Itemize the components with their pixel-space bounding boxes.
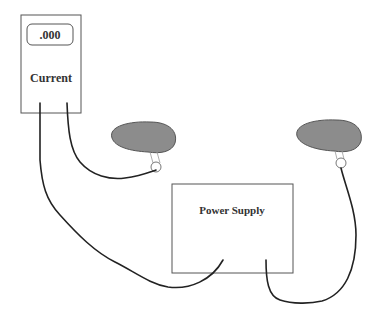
ammeter-label: Current (30, 71, 72, 85)
ammeter: .000 Current (21, 15, 81, 113)
circuit-diagram: .000 Current Power Supply (0, 0, 382, 322)
left-probe-handle (112, 122, 176, 153)
power-supply: Power Supply (172, 184, 293, 273)
right-probe-neck (335, 151, 344, 159)
right-probe (297, 120, 362, 168)
power-supply-label: Power Supply (199, 204, 265, 216)
left-probe (112, 122, 176, 172)
left-probe-neck (150, 152, 160, 163)
ammeter-reading: .000 (40, 28, 61, 42)
power-supply-body (172, 184, 293, 273)
right-probe-ring (336, 158, 346, 168)
right-probe-handle (297, 120, 362, 152)
